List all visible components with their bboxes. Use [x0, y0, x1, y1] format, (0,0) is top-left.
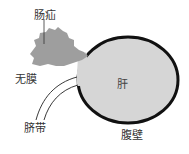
membraneless-label: 无膜: [15, 74, 37, 86]
abdominal-wall-label: 腹壁: [121, 130, 143, 142]
umbilical-cord: [36, 77, 78, 120]
hernia-label: 肠疝: [34, 10, 56, 22]
umbilical-cord-label: 脐带: [24, 123, 46, 135]
hernia-cloud: [30, 19, 88, 66]
omphalocele-diagram: 肠疝 无膜 脐带 肝 腹壁: [0, 0, 189, 154]
liver-label: 肝: [117, 79, 128, 91]
liver-shape: [78, 37, 178, 123]
